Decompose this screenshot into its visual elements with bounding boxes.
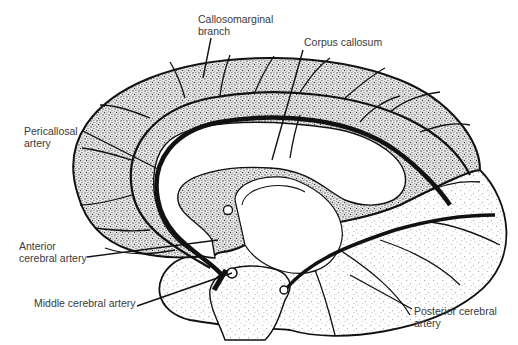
label-corpus-callosum: Corpus callosum (304, 36, 382, 48)
label-pericallosal-artery: Pericallosal artery (24, 125, 78, 149)
label-middle-cerebral-artery: Middle cerebral artery (34, 297, 136, 309)
brain-artery-diagram (0, 0, 518, 345)
label-callosomarginal-branch: Callosomarginal branch (198, 13, 273, 37)
label-posterior-cerebral-artery: Posterior cerebral artery (414, 305, 497, 329)
posterior-cerebral-origin (280, 286, 288, 294)
label-anterior-cerebral-artery: Anterior cerebral artery (19, 240, 87, 264)
